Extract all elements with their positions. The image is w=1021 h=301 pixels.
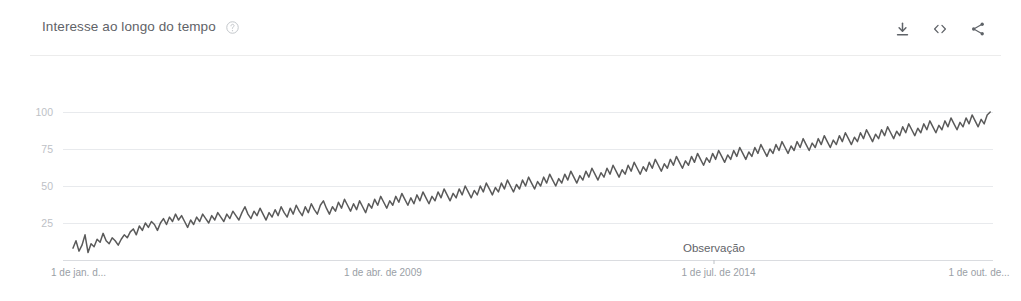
x-axis-tick-label: 1 de out. de... [948,267,1009,278]
header-actions [893,20,987,38]
x-axis-tick-label: 1 de abr. de 2009 [344,267,422,278]
download-icon[interactable] [893,20,911,38]
y-axis-labels: 255075100 [35,106,53,229]
help-circle-icon[interactable] [225,20,240,35]
page-title: Interesse ao longo do tempo [42,18,216,36]
y-axis-tick-label: 75 [41,143,53,155]
interest-over-time-chart[interactable]: 255075100 1 de jan. d...1 de abr. de 200… [0,56,1021,301]
gridlines [63,112,993,223]
y-axis-tick-label: 50 [41,180,53,192]
x-axis-labels: 1 de jan. d...1 de abr. de 20091 de jul.… [51,267,1010,278]
y-axis-tick-label: 100 [35,106,53,118]
x-axis-tick-label: 1 de jul. de 2014 [682,267,756,278]
chart-plot-area[interactable]: 255075100 1 de jan. d...1 de abr. de 200… [0,56,1021,301]
embed-icon[interactable] [931,20,949,38]
y-axis-tick-label: 25 [41,217,53,229]
share-icon[interactable] [969,20,987,38]
chart-annotations: Observação [683,242,745,264]
trends-interest-card: Interesse ao longo do tempo [0,0,1021,301]
header-title-group: Interesse ao longo do tempo [42,18,240,36]
interest-series-line[interactable] [73,112,990,253]
card-header: Interesse ao longo do tempo [0,0,1021,56]
annotation-label: Observação [683,242,745,254]
x-axis-tick-label: 1 de jan. d... [51,267,106,278]
